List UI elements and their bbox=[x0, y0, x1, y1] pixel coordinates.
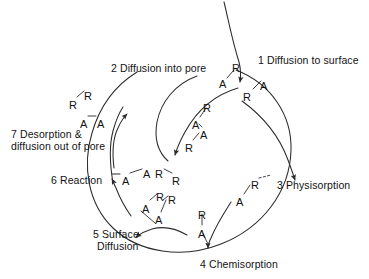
atom-s3-a: A bbox=[236, 197, 243, 208]
bond-s6-a bbox=[130, 169, 142, 173]
label-step-5-line1: 5 Surface bbox=[93, 228, 139, 241]
label-step-7-line2: diffusion out of pore bbox=[11, 140, 105, 153]
atom-s6-a-mid: A bbox=[143, 169, 150, 180]
atom-s5-r-upper: R bbox=[156, 192, 164, 203]
atom-s1-a-right: A bbox=[260, 81, 267, 92]
label-step-7-line1: 7 Desorption & bbox=[11, 128, 82, 141]
atom-s7-a-right: A bbox=[97, 119, 104, 130]
label-step-3: 3 Physisorption bbox=[277, 179, 350, 192]
atom-s7-r-left: R bbox=[69, 100, 77, 111]
atom-s1-r-low: R bbox=[243, 92, 251, 103]
arrow-to-surface-diffusion bbox=[136, 228, 187, 237]
atom-s6-a-left: A bbox=[122, 176, 129, 187]
catalysis-cycle-figure: 1 Diffusion to surface 2 Diffusion into … bbox=[0, 0, 369, 279]
atom-s4-r: R bbox=[198, 210, 206, 221]
atom-s1-r-top: R bbox=[232, 63, 240, 74]
atom-s2-a-upper: A bbox=[192, 120, 199, 131]
label-step-2: 2 Diffusion into pore bbox=[111, 62, 206, 75]
label-step-1: 1 Diffusion to surface bbox=[258, 54, 359, 67]
bond-s2-c bbox=[193, 133, 199, 140]
arrow-to-desorption bbox=[113, 114, 127, 168]
atom-s1-a-left: A bbox=[219, 79, 226, 90]
label-step-6: 6 Reaction bbox=[51, 174, 102, 187]
atom-s2-a-lower: A bbox=[200, 130, 207, 141]
bond-s3-dashed bbox=[259, 175, 271, 178]
atom-s2-r-lower: R bbox=[185, 143, 193, 154]
atom-s5-r-right: R bbox=[168, 195, 176, 206]
atom-s7-a-left: A bbox=[80, 119, 87, 130]
pore-exit-wall bbox=[110, 107, 123, 183]
arrow-to-physisorption bbox=[242, 101, 295, 180]
atom-s6-r-right: R bbox=[172, 176, 180, 187]
bond-s2-b bbox=[199, 124, 202, 127]
atom-s5-a-upper: A bbox=[142, 204, 149, 215]
bond-s7-rr bbox=[77, 91, 84, 97]
atom-s3-r: R bbox=[251, 180, 259, 191]
atom-s4-a: A bbox=[198, 229, 205, 240]
bond-s6-b bbox=[164, 169, 172, 173]
atom-s6-r-mid: R bbox=[155, 169, 163, 180]
atom-s2-r-upper: R bbox=[203, 103, 211, 114]
atom-s5-a-lower: A bbox=[155, 215, 162, 226]
bond-s3 bbox=[244, 185, 250, 194]
main-cycle-circle bbox=[87, 70, 291, 252]
label-step-5-line2: Diffusion bbox=[97, 240, 139, 253]
label-step-4: 4 Chemisorption bbox=[200, 258, 278, 271]
atom-s7-r-right: R bbox=[84, 91, 92, 102]
